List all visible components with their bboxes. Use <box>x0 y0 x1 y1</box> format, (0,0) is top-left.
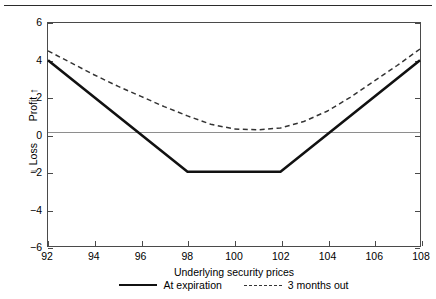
x-tick <box>422 241 423 246</box>
legend-swatch-dashed-icon <box>244 285 282 286</box>
x-tick-label: 104 <box>308 251 348 262</box>
x-tick-label: 92 <box>27 251 67 262</box>
loss-arrow-icon: ↓ <box>27 168 39 174</box>
y-axis-title: ↓ Loss Profit ↑ <box>27 46 39 216</box>
x-tick-label: 108 <box>401 251 436 262</box>
y-axis-title-profit: Profit <box>27 97 39 122</box>
profit-arrow-icon: ↑ <box>27 88 39 94</box>
y-tick <box>48 248 53 249</box>
y-axis-title-loss: Loss <box>27 143 39 165</box>
x-tick-label: 100 <box>214 251 254 262</box>
legend-swatch-solid-icon <box>119 284 157 286</box>
y-tick <box>415 248 420 249</box>
legend-label-at-expiration: At expiration <box>163 279 221 291</box>
x-tick-label: 102 <box>261 251 301 262</box>
legend-label-3-months-out: 3 months out <box>288 279 349 291</box>
header-rule <box>4 5 432 6</box>
legend-item-3-months-out: 3 months out <box>244 279 349 291</box>
line-at-expiration <box>48 60 420 172</box>
x-axis-title: Underlying security prices <box>47 266 421 278</box>
figure: 6420−2−4−6 92949698100102104106108 ↓ Los… <box>0 0 436 299</box>
x-tick-label: 96 <box>121 251 161 262</box>
plot-area <box>47 22 421 247</box>
x-tick-label: 106 <box>354 251 394 262</box>
y-tick-label: 6 <box>18 17 42 28</box>
legend: At expiration 3 months out <box>47 279 421 291</box>
legend-item-at-expiration: At expiration <box>119 279 221 291</box>
x-tick-label: 94 <box>74 251 114 262</box>
series-lines <box>48 23 420 246</box>
x-tick-label: 98 <box>167 251 207 262</box>
line-3-months-out <box>48 49 420 130</box>
